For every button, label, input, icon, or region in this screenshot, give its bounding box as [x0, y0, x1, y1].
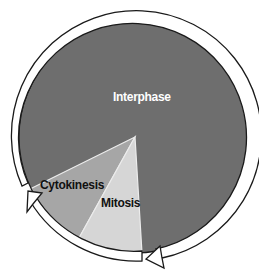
cytokinesis-label: Cytokinesis	[40, 178, 104, 192]
interphase-label: Interphase	[113, 90, 171, 104]
cell-cycle-diagram	[0, 0, 259, 270]
mitosis-label: Mitosis	[101, 196, 140, 210]
